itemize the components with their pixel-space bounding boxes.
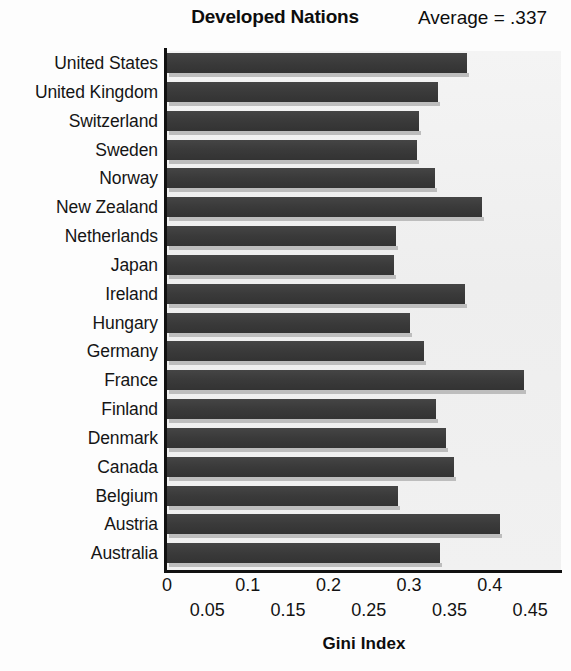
country-label: Ireland [0,284,158,305]
bar-shadow [169,131,421,135]
bar [167,313,410,333]
bar-shadow [169,361,426,365]
bar-row: Hungary [0,311,571,340]
bar-row: Netherlands [0,224,571,253]
country-label: United Kingdom [0,82,158,103]
bar-shadow [169,73,469,77]
bar-row: Sweden [0,138,571,167]
bar-track [167,397,561,426]
x-axis-title: Gini Index [167,634,561,654]
country-label: Norway [0,168,158,189]
bar-track [167,166,561,195]
x-tick-major: 0.4 [477,575,502,596]
bar-track [167,195,561,224]
country-label: Austria [0,514,158,535]
bar [167,82,438,102]
bar-shadow [169,246,398,250]
bar-shadow [169,188,437,192]
bar-row: Austria [0,512,571,541]
country-label: Canada [0,457,158,478]
country-label: Australia [0,543,158,564]
bar-track [167,282,561,311]
bar-row: New Zealand [0,195,571,224]
bar-track [167,138,561,167]
country-label: Switzerland [0,111,158,132]
chart-title: Developed Nations [160,6,390,28]
bar-shadow [169,390,526,394]
bar-row: Switzerland [0,109,571,138]
bar-track [167,455,561,484]
country-label: Denmark [0,428,158,449]
bar-row: Belgium [0,484,571,513]
bar-track [167,339,561,368]
bar-rows-container: United StatesUnited KingdomSwitzerlandSw… [0,51,571,570]
bar [167,168,435,188]
bar-row: Finland [0,397,571,426]
x-axis-ticks: 00.10.20.30.40.050.150.250.350.45 [0,573,571,631]
country-label: Belgium [0,486,158,507]
bar-shadow [169,333,412,337]
bar [167,197,482,217]
bar-shadow [169,304,467,308]
country-label: Hungary [0,313,158,334]
country-label: Germany [0,341,158,362]
country-label: Netherlands [0,226,158,247]
bar [167,399,436,419]
bar-track [167,80,561,109]
country-label: Japan [0,255,158,276]
bar-track [167,368,561,397]
bar-row: Denmark [0,426,571,455]
bar-shadow [169,275,396,279]
x-tick-minor: 0.15 [271,600,306,621]
bar-row: France [0,368,571,397]
bar-track [167,51,561,80]
bar [167,111,419,131]
bar-row: Canada [0,455,571,484]
bar-shadow [169,217,484,221]
gini-index-bar-chart-figure: Developed Nations Average = .337 United … [0,0,571,671]
bar [167,341,424,361]
country-label: United States [0,53,158,74]
bar-track [167,512,561,541]
x-tick-major: 0 [162,575,172,596]
bar-row: Japan [0,253,571,282]
country-label: New Zealand [0,197,158,218]
country-label: Finland [0,399,158,420]
x-tick-minor: 0.45 [513,600,548,621]
bar-track [167,224,561,253]
bar [167,140,417,160]
bar [167,53,467,73]
bar [167,514,500,534]
bar-track [167,109,561,138]
bar [167,284,465,304]
bar-shadow [169,160,419,164]
bar [167,543,440,563]
bar [167,255,394,275]
country-label: Sweden [0,140,158,161]
bar-track [167,426,561,455]
x-tick-major: 0.3 [397,575,422,596]
bar [167,226,396,246]
x-tick-major: 0.2 [316,575,341,596]
bar-row: Norway [0,166,571,195]
bar-shadow [169,563,442,567]
x-tick-major: 0.1 [235,575,260,596]
bar-row: Australia [0,541,571,570]
bar-track [167,484,561,513]
bar-shadow [169,506,400,510]
x-tick-minor: 0.35 [432,600,467,621]
bar [167,457,454,477]
bar-track [167,253,561,282]
x-tick-minor: 0.05 [190,600,225,621]
bar-shadow [169,448,448,452]
x-tick-minor: 0.25 [351,600,386,621]
bar-track [167,541,561,570]
bar [167,486,398,506]
chart-header: Developed Nations Average = .337 [0,6,571,40]
bar-shadow [169,419,438,423]
bar-shadow [169,102,440,106]
bar-row: Germany [0,339,571,368]
bar [167,370,524,390]
bar-row: United States [0,51,571,80]
bar-track [167,311,561,340]
